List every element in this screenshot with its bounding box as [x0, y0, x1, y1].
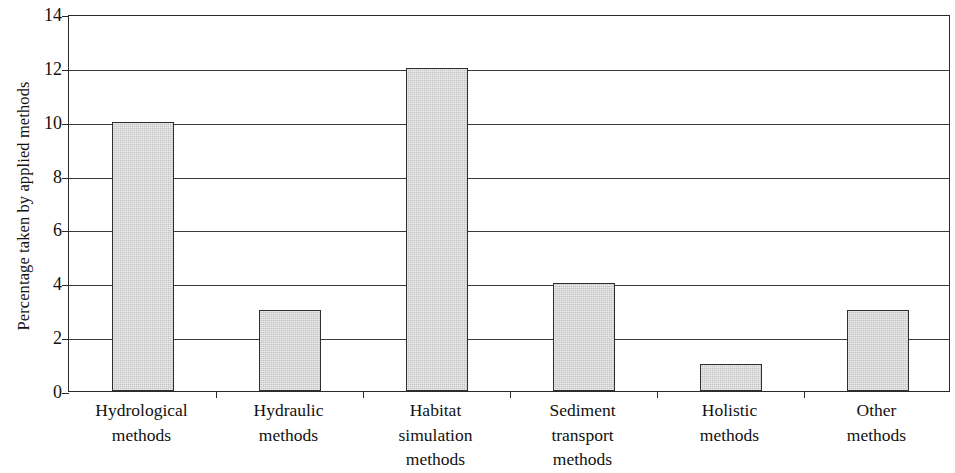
- bar-series: [69, 16, 949, 391]
- y-tick-mark: [62, 285, 69, 286]
- x-axis-label-line: methods: [215, 423, 362, 448]
- y-tick-label: 2: [22, 329, 62, 347]
- x-axis-label-line: methods: [509, 447, 656, 472]
- x-tick-mark: [657, 391, 658, 398]
- y-tick-label: 0: [22, 383, 62, 401]
- x-axis-label: Hydraulicmethods: [215, 398, 362, 447]
- x-axis-label: Othermethods: [803, 398, 950, 447]
- bar: [553, 283, 615, 391]
- x-axis-label-line: Sediment: [509, 398, 656, 423]
- x-axis-label-line: methods: [656, 423, 803, 448]
- y-tick-label: 12: [22, 60, 62, 78]
- x-tick-mark: [216, 391, 217, 398]
- y-tick-label: 10: [22, 114, 62, 132]
- y-tick-mark: [62, 339, 69, 340]
- y-tick-mark: [62, 393, 69, 394]
- x-axis-label-line: simulation: [362, 423, 509, 448]
- y-tick-label: 14: [22, 6, 62, 24]
- y-tick-mark: [62, 16, 69, 17]
- x-axis-category-labels: HydrologicalmethodsHydraulicmethodsHabit…: [68, 398, 950, 473]
- x-axis-label: Habitatsimulationmethods: [362, 398, 509, 472]
- y-tick-mark: [62, 70, 69, 71]
- x-axis-label: Holisticmethods: [656, 398, 803, 447]
- y-tick-label: 8: [22, 168, 62, 186]
- x-axis-label-line: Other: [803, 398, 950, 423]
- bar: [259, 310, 321, 391]
- y-axis-tick-labels: 02468101214: [22, 0, 62, 473]
- plot-area: [68, 15, 950, 392]
- bar: [406, 68, 468, 391]
- x-axis-label: Sedimenttransportmethods: [509, 398, 656, 472]
- x-tick-mark: [510, 391, 511, 398]
- x-axis-label-line: Holistic: [656, 398, 803, 423]
- x-axis-label-line: transport: [509, 423, 656, 448]
- x-axis-label: Hydrologicalmethods: [68, 398, 215, 447]
- x-tick-mark: [363, 391, 364, 398]
- y-tick-mark: [62, 231, 69, 232]
- bar: [847, 310, 909, 391]
- bar: [112, 122, 174, 391]
- x-tick-mark: [804, 391, 805, 398]
- x-axis-label-line: methods: [68, 423, 215, 448]
- bar-chart-figure: Percentage taken by applied methods 0246…: [0, 0, 955, 473]
- bar: [700, 364, 762, 391]
- x-axis-label-line: Hydraulic: [215, 398, 362, 423]
- x-axis-label-line: methods: [803, 423, 950, 448]
- y-tick-label: 6: [22, 221, 62, 239]
- y-tick-label: 4: [22, 275, 62, 293]
- y-tick-mark: [62, 124, 69, 125]
- x-axis-label-line: Hydrological: [68, 398, 215, 423]
- y-tick-mark: [62, 178, 69, 179]
- x-axis-label-line: methods: [362, 447, 509, 472]
- x-axis-label-line: Habitat: [362, 398, 509, 423]
